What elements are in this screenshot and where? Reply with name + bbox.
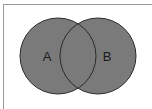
set-b-label: B <box>103 49 112 64</box>
set-a-label: A <box>43 49 52 64</box>
venn-diagram: A B <box>0 0 152 109</box>
